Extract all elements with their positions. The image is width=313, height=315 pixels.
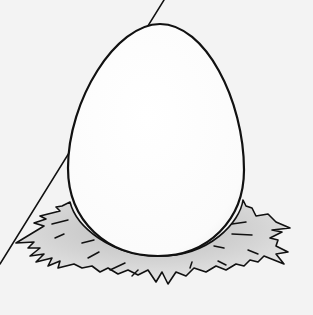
egg — [68, 24, 244, 256]
egg-in-nest-illustration: Illustration of a white egg resting on a… — [0, 0, 313, 315]
